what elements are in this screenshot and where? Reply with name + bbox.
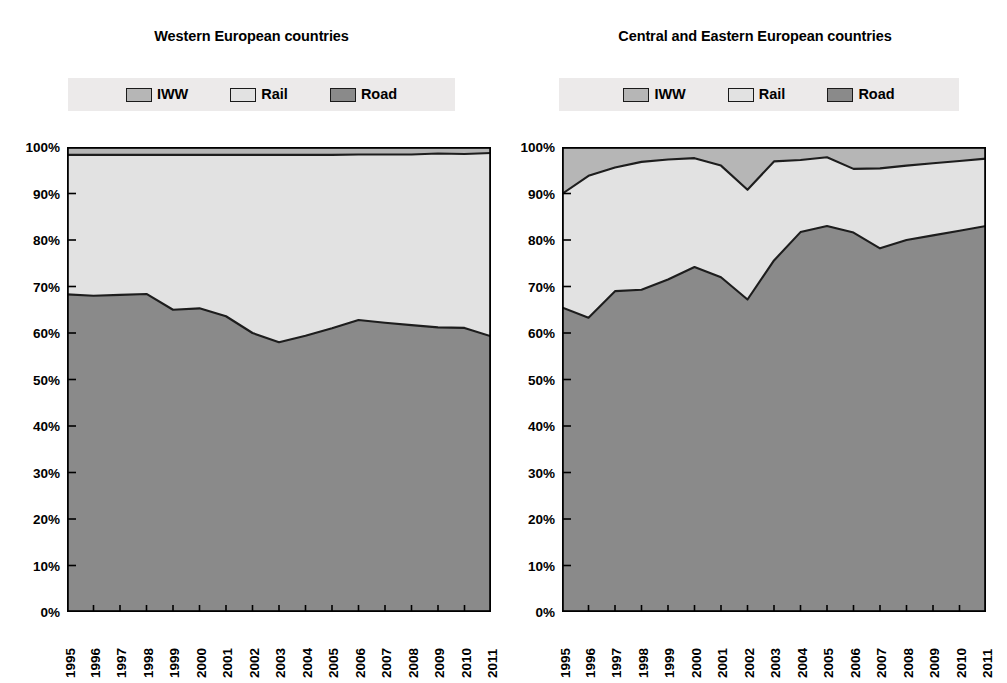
x-axis-tick-label: 2010 — [459, 648, 474, 678]
x-axis-tick-label: 2003 — [273, 648, 288, 678]
legend-swatch-iww-icon — [126, 88, 152, 102]
legend-item-road: Road — [330, 87, 397, 102]
panel-central-eastern-european: Central and Eastern European countries I… — [503, 0, 1007, 683]
legend-label-iww: IWW — [157, 87, 188, 102]
x-axis-tick-label: 1996 — [88, 648, 103, 678]
y-axis-labels-cee: 0%10%20%30%40%50%60%70%80%90%100% — [503, 0, 555, 683]
y-axis-tick-label: 40% — [33, 419, 60, 434]
y-axis-tick-label: 60% — [528, 326, 555, 341]
panel-western-european: Western European countries IWW Rail Road… — [0, 0, 503, 683]
y-axis-tick-label: 70% — [528, 279, 555, 294]
x-axis-tick-label: 2005 — [821, 648, 836, 678]
x-axis-tick-label: 2010 — [954, 648, 969, 678]
legend-item-rail: Rail — [230, 87, 288, 102]
x-axis-tick-label: 2008 — [901, 648, 916, 678]
y-axis-tick-label: 0% — [40, 605, 60, 620]
legend-label-road: Road — [361, 87, 397, 102]
y-axis-tick-label: 10% — [33, 558, 60, 573]
legend-swatch-iww-icon — [623, 88, 649, 102]
y-axis-tick-label: 40% — [528, 419, 555, 434]
x-axis-tick-label: 1997 — [114, 648, 129, 678]
x-axis-tick-label: 2006 — [353, 648, 368, 678]
area-chart-western — [67, 147, 491, 612]
y-axis-tick-label: 10% — [528, 558, 555, 573]
x-axis-tick-label: 2011 — [980, 649, 995, 678]
y-axis-tick-label: 100% — [25, 140, 60, 155]
y-axis-tick-label: 100% — [520, 140, 555, 155]
y-axis-tick-label: 30% — [528, 465, 555, 480]
legend-swatch-road-icon — [330, 88, 356, 102]
y-axis-tick-label: 20% — [528, 512, 555, 527]
x-axis-tick-label: 1995 — [63, 648, 78, 678]
legend-item-rail: Rail — [728, 87, 786, 102]
x-axis-tick-label: 2009 — [432, 648, 447, 678]
x-axis-tick-label: 2001 — [715, 648, 730, 678]
legend-item-road: Road — [827, 87, 894, 102]
legend-item-iww: IWW — [623, 87, 685, 102]
x-axis-tick-label: 2005 — [326, 648, 341, 678]
x-axis-tick-label: 2007 — [874, 648, 889, 678]
legend-label-rail: Rail — [759, 87, 786, 102]
x-axis-tick-label: 2004 — [300, 648, 315, 678]
legend-western: IWW Rail Road — [68, 78, 455, 111]
x-axis-tick-label: 2000 — [689, 648, 704, 678]
x-axis-tick-label: 1999 — [662, 648, 677, 678]
legend-label-rail: Rail — [261, 87, 288, 102]
x-axis-tick-label: 2009 — [927, 648, 942, 678]
y-axis-labels-western: 0%10%20%30%40%50%60%70%80%90%100% — [0, 0, 60, 683]
x-axis-tick-label: 1995 — [558, 648, 573, 678]
y-axis-tick-label: 60% — [33, 326, 60, 341]
y-axis-tick-label: 0% — [535, 605, 555, 620]
legend-swatch-road-icon — [827, 88, 853, 102]
legend-cee: IWW Rail Road — [559, 78, 959, 111]
y-axis-tick-label: 90% — [528, 186, 555, 201]
x-axis-tick-label: 2001 — [220, 648, 235, 678]
x-axis-tick-label: 2008 — [406, 648, 421, 678]
y-axis-tick-label: 70% — [33, 279, 60, 294]
x-axis-labels-western: 1995199619971998199920002001200220032004… — [67, 620, 491, 683]
x-axis-tick-label: 2011 — [485, 649, 500, 678]
plot-area-western — [67, 147, 491, 612]
plot-area-cee — [562, 147, 986, 612]
panel-title-western: Western European countries — [0, 28, 503, 44]
x-axis-labels-cee: 1995199619971998199920002001200220032004… — [562, 620, 986, 683]
y-axis-tick-label: 50% — [528, 372, 555, 387]
x-axis-tick-label: 1999 — [167, 648, 182, 678]
x-axis-tick-label: 2000 — [194, 648, 209, 678]
legend-swatch-rail-icon — [728, 88, 754, 102]
area-chart-cee — [562, 147, 986, 612]
x-axis-tick-label: 2007 — [379, 648, 394, 678]
legend-label-road: Road — [858, 87, 894, 102]
legend-label-iww: IWW — [654, 87, 685, 102]
x-axis-tick-label: 1997 — [609, 648, 624, 678]
figure-container: Western European countries IWW Rail Road… — [0, 0, 1007, 683]
legend-swatch-rail-icon — [230, 88, 256, 102]
x-axis-tick-label: 2003 — [768, 648, 783, 678]
x-axis-tick-label: 1998 — [141, 648, 156, 678]
panel-title-cee: Central and Eastern European countries — [503, 28, 1007, 44]
legend-item-iww: IWW — [126, 87, 188, 102]
x-axis-tick-label: 2004 — [795, 648, 810, 678]
x-axis-tick-label: 2002 — [247, 648, 262, 678]
y-axis-tick-label: 90% — [33, 186, 60, 201]
x-axis-tick-label: 2006 — [848, 648, 863, 678]
x-axis-tick-label: 2002 — [742, 648, 757, 678]
x-axis-tick-label: 1998 — [636, 648, 651, 678]
y-axis-tick-label: 20% — [33, 512, 60, 527]
x-axis-tick-label: 1996 — [583, 648, 598, 678]
y-axis-tick-label: 30% — [33, 465, 60, 480]
y-axis-tick-label: 80% — [528, 233, 555, 248]
y-axis-tick-label: 80% — [33, 233, 60, 248]
y-axis-tick-label: 50% — [33, 372, 60, 387]
